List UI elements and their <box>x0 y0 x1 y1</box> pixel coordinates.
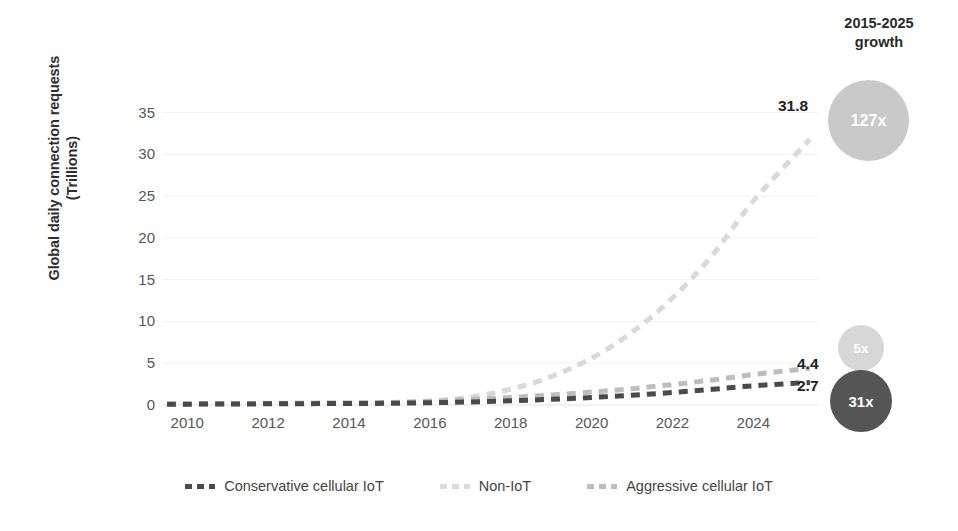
y-axis-title: Global daily connection requests (Trilli… <box>45 43 81 293</box>
legend-swatch-icon <box>587 484 617 489</box>
x-tick-label: 2016 <box>413 414 446 431</box>
y-tick-label: 15 <box>115 272 155 287</box>
y-tick-label: 35 <box>115 105 155 120</box>
growth-bubble-aggressive-label: 5x <box>853 341 868 356</box>
legend-item[interactable]: Non-IoT <box>440 478 531 494</box>
growth-bubble-conservative-label: 31x <box>848 393 873 410</box>
end-label-conservative: 2.7 <box>797 377 819 395</box>
legend-item[interactable]: Aggressive cellular IoT <box>587 478 773 494</box>
series-lines <box>167 139 810 404</box>
legend-label: Non-IoT <box>479 478 531 494</box>
series-line <box>167 368 810 404</box>
y-tick-label: 10 <box>115 313 155 328</box>
growth-panel-title: 2015-2025 growth <box>800 14 958 52</box>
x-tick-label: 2018 <box>494 414 527 431</box>
plot-svg <box>163 100 818 405</box>
legend-swatch-icon <box>185 484 215 489</box>
growth-title-line2: growth <box>800 33 958 52</box>
legend-swatch-icon <box>440 484 470 489</box>
y-axis-title-text: Global daily connection requests (Trilli… <box>46 56 80 281</box>
legend-label: Aggressive cellular IoT <box>626 478 773 494</box>
end-label-aggressive: 4.4 <box>797 355 819 373</box>
legend-item[interactable]: Conservative cellular IoT <box>185 478 384 494</box>
series-line <box>167 139 810 404</box>
y-tick-label: 25 <box>115 188 155 203</box>
x-tick-label: 2024 <box>737 414 770 431</box>
chart-container: Global daily connection requests (Trilli… <box>0 0 958 531</box>
growth-title-line1: 2015-2025 <box>800 14 958 33</box>
growth-bubble-non-iot: 127x <box>828 80 909 161</box>
end-label-non-iot: 31.8 <box>778 97 808 115</box>
legend-label: Conservative cellular IoT <box>224 478 384 494</box>
gridlines <box>163 113 818 405</box>
chart-legend: Conservative cellular IoTNon-IoTAggressi… <box>0 478 958 494</box>
x-tick-label: 2014 <box>332 414 365 431</box>
plot-area <box>163 100 818 405</box>
x-tick-label: 2020 <box>575 414 608 431</box>
x-tick-label: 2010 <box>171 414 204 431</box>
growth-bubble-aggressive: 5x <box>838 325 884 371</box>
y-tick-label: 20 <box>115 230 155 245</box>
growth-bubble-non-iot-label: 127x <box>851 112 887 130</box>
growth-bubble-conservative: 31x <box>830 370 892 432</box>
y-tick-label: 0 <box>115 397 155 412</box>
y-tick-label: 30 <box>115 146 155 161</box>
x-tick-label: 2012 <box>251 414 284 431</box>
x-tick-label: 2022 <box>656 414 689 431</box>
y-tick-label: 5 <box>115 355 155 370</box>
x-axis-ticks: 20102012201420162018202020222024 <box>163 414 818 438</box>
y-axis-ticks: 05101520253035 <box>110 100 155 405</box>
